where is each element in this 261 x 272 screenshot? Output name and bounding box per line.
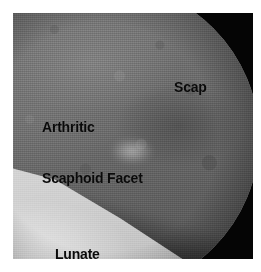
annotation-arthritic-scaphoid-facet: Arthritic Scaphoid Facet [42, 85, 143, 221]
annotation-scap: Scap [174, 45, 207, 130]
annotation-arthritic-scaphoid-facet-line-2: Scaphoid Facet [42, 170, 143, 187]
annotation-lunate-facet: Lunate Facet [55, 212, 100, 259]
annotation-lunate-facet-line-1: Lunate [55, 246, 100, 259]
annotation-arthritic-scaphoid-facet-line-1: Arthritic [42, 119, 143, 136]
annotation-scap-line-1: Scap [174, 79, 207, 96]
arthroscopy-figure: Scap Arthritic Scaphoid Facet Lunate Fac… [0, 0, 261, 272]
arthroscopy-photo: Scap Arthritic Scaphoid Facet Lunate Fac… [13, 13, 253, 259]
